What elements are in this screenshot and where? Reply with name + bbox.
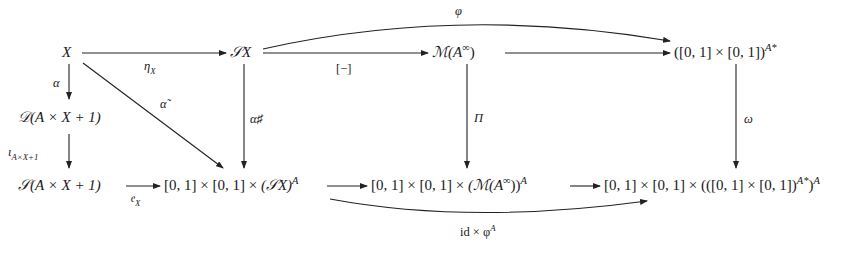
label-omega: ω	[744, 113, 753, 126]
bracket-text: [−]	[336, 62, 351, 76]
node-row2-pair: [0, 1] × [0, 1] × (([0, 1] × [0, 1])A*)A	[604, 178, 820, 193]
label-alpha-tilde: α̃	[160, 98, 167, 111]
pair-text: ([0, 1] × [0, 1])	[674, 44, 765, 60]
prefix: [0, 1] × [0, 1] ×	[164, 177, 261, 193]
arrows-layer	[0, 0, 867, 262]
label-eta: ηX	[144, 60, 156, 73]
node-pair-power: ([0, 1] × [0, 1])A*	[674, 45, 777, 60]
script-S: 𝒮	[230, 44, 242, 60]
label-id-phi: id × φA	[460, 226, 496, 239]
phi-text: φ	[455, 4, 462, 18]
id-phi-text: id × φ	[460, 225, 490, 239]
D-text: 𝒟(	[18, 109, 35, 125]
AX1-text: A × X + 1)	[35, 109, 101, 125]
A-text: A	[453, 44, 462, 60]
node-S: 𝒮(A × X + 1)	[18, 178, 101, 193]
node-X: X	[62, 45, 71, 60]
iota-sub: A×X+1	[11, 152, 38, 162]
prefix: [0, 1] × [0, 1] ×	[604, 177, 701, 193]
label-alpha: α	[53, 77, 60, 90]
label-iota: ιA×X+1	[8, 146, 38, 159]
inf-sup: ∞	[503, 175, 511, 186]
alpha-tilde-text: α̃	[160, 97, 167, 111]
supA: A	[521, 175, 527, 186]
label-bracket: [−]	[336, 63, 351, 76]
node-X-text: X	[62, 44, 71, 60]
eta-sub: X	[150, 66, 155, 76]
node-M-Ainf: ℳ(A∞)	[432, 45, 475, 60]
Astar-sup: A*	[765, 42, 777, 53]
commutative-diagram: X 𝒮X ℳ(A∞) ([0, 1] × [0, 1])A* 𝒟(A × X +…	[0, 0, 867, 262]
prefix: [0, 1] × [0, 1] ×	[371, 177, 468, 193]
M-text: ℳ(	[432, 44, 453, 60]
supA: A	[814, 175, 820, 186]
label-alpha-sharp: α♯	[250, 113, 263, 126]
pair-body: (([0, 1] × [0, 1])	[701, 177, 797, 193]
supA: A	[292, 175, 298, 186]
M-body: (ℳ(A	[468, 177, 503, 193]
SX-body: (𝒮X)	[261, 177, 292, 193]
alpha-sharp-text: α♯	[250, 112, 263, 126]
close-paren: )	[470, 44, 475, 60]
AX1-text-2: A × X + 1)	[35, 177, 101, 193]
node-row2-SX: [0, 1] × [0, 1] × (𝒮X)A	[164, 178, 298, 193]
label-phi: φ	[455, 5, 462, 18]
close: ))	[511, 177, 521, 193]
arrow-id-phi	[330, 199, 647, 213]
S-text: 𝒮(	[18, 177, 35, 193]
node-D: 𝒟(A × X + 1)	[18, 110, 101, 125]
X-text: X	[242, 44, 251, 60]
node-row2-M: [0, 1] × [0, 1] × (ℳ(A∞))A	[371, 178, 527, 193]
alpha-text: α	[53, 76, 60, 90]
arrow-alpha-tilde	[83, 63, 223, 168]
Astar-sup: A*	[797, 175, 809, 186]
label-Pi: Π	[474, 112, 483, 125]
node-SX: 𝒮X	[230, 45, 251, 60]
e-sub: X	[135, 198, 140, 208]
Pi-text: Π	[474, 111, 483, 125]
label-e: 𝔢X	[130, 192, 140, 205]
inf-sup: ∞	[462, 42, 470, 53]
id-phi-sup: A	[490, 223, 495, 233]
omega-text: ω	[744, 112, 753, 126]
